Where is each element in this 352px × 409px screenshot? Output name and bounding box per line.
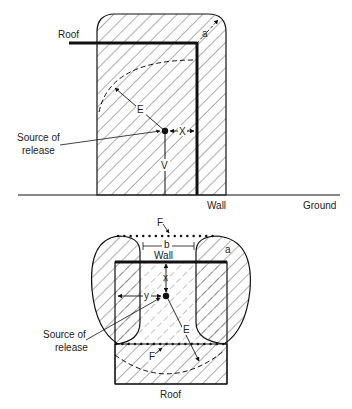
wall-label: Wall: [207, 200, 226, 211]
elevation-view: E X V a Roof Wall Ground Source of relea…: [17, 14, 340, 211]
plan-dim-e-label: E: [183, 324, 190, 335]
source-label-line1: Source of: [17, 132, 60, 143]
roof-label: Roof: [58, 29, 79, 40]
plan-source-point: [163, 293, 169, 299]
plan-dim-a-label: a: [225, 244, 231, 255]
dim-e-label: E: [137, 104, 144, 115]
plan-source-label-line1: Source of: [43, 329, 86, 340]
hazard-lobe-left: [92, 236, 140, 344]
plan-source-label-line2: release: [55, 342, 88, 353]
hazard-lobe-right: [196, 236, 250, 344]
plan-dim-b-label: b: [164, 239, 170, 250]
plan-wall-label: Wall: [154, 250, 173, 261]
roof-zone-lower: [115, 344, 227, 384]
plan-dim-y-label: y: [144, 290, 149, 301]
hazard-zone-diagram: E X V a Roof Wall Ground Source of relea…: [0, 0, 352, 409]
source-label-line2: release: [22, 145, 55, 156]
plan-view: x y E b Wall a F F Source of release Roo…: [43, 217, 250, 400]
dim-v-label: V: [161, 160, 168, 171]
f-top-arrow: [163, 224, 169, 233]
plan-roof-label: Roof: [160, 389, 181, 400]
plan-dim-x-label: x: [163, 272, 168, 283]
dim-a-label: a: [202, 28, 208, 39]
plan-dim-f-top-label: F: [157, 217, 163, 228]
ground-label: Ground: [303, 200, 336, 211]
dim-x-label: X: [179, 126, 186, 137]
plan-dim-f-bottom-label: F: [149, 351, 155, 362]
